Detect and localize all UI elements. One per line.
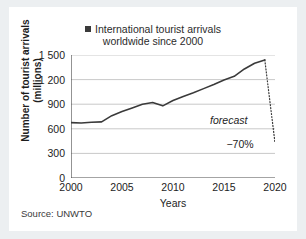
- legend-title-line-1: International tourist arrivals: [95, 23, 221, 35]
- legend-line-2: worldwide since 2000: [9, 35, 297, 47]
- x-tick-label: 2005: [102, 182, 142, 193]
- chart-legend: International tourist arrivals worldwide…: [9, 23, 297, 47]
- plot-area: 03006009001 2001 500 2000200520102015202…: [71, 55, 275, 178]
- forecast-annotation: forecast: [210, 114, 247, 126]
- x-tick-label: 2015: [204, 182, 244, 193]
- y-tick-label: 1 500: [29, 50, 65, 60]
- x-axis-title: Years: [71, 197, 275, 209]
- forecast-line: [265, 60, 275, 143]
- source-note: Source: UNWTO: [21, 208, 92, 219]
- square-marker-icon: [85, 26, 91, 32]
- drop-percent-annotation: −70%: [226, 138, 253, 150]
- x-tick-label: 2010: [153, 182, 193, 193]
- chart-card: International tourist arrivals worldwide…: [9, 7, 297, 231]
- legend-line-1: International tourist arrivals: [9, 23, 297, 35]
- y-tick-label: 1 200: [29, 75, 65, 85]
- y-tick-label: 300: [29, 148, 65, 158]
- y-tick-label: 600: [29, 124, 65, 134]
- x-tick-label: 2000: [51, 182, 91, 193]
- x-tick-label: 2020: [255, 182, 295, 193]
- y-tick-label: 900: [29, 99, 65, 109]
